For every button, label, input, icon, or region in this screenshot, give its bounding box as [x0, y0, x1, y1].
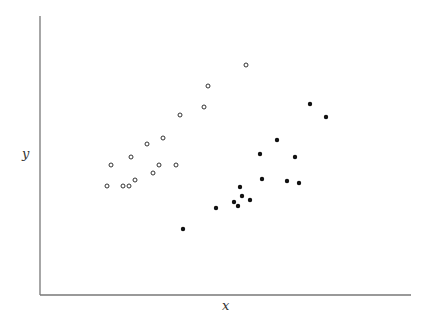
x-axis-label: x — [222, 298, 229, 313]
filled-dot-point — [240, 194, 244, 198]
open-circle-point — [178, 113, 182, 117]
filled-dot-series — [181, 102, 328, 231]
filled-dot-point — [232, 200, 236, 204]
filled-dot-point — [236, 204, 240, 208]
open-circle-point — [121, 184, 125, 188]
open-circle-point — [109, 163, 113, 167]
open-circle-point — [145, 142, 149, 146]
filled-dot-point — [297, 181, 301, 185]
open-circle-point — [244, 63, 248, 67]
open-circle-point — [151, 171, 155, 175]
open-circle-point — [161, 136, 165, 140]
filled-dot-point — [308, 102, 312, 106]
y-axis-label: y — [22, 146, 29, 161]
open-circle-point — [127, 184, 131, 188]
filled-dot-point — [238, 185, 242, 189]
filled-dot-point — [285, 179, 289, 183]
filled-dot-point — [260, 177, 264, 181]
filled-dot-point — [248, 198, 252, 202]
open-circle-series — [105, 63, 248, 188]
open-circle-point — [129, 155, 133, 159]
filled-dot-point — [275, 138, 279, 142]
open-circle-point — [206, 84, 210, 88]
filled-dot-point — [324, 115, 328, 119]
open-circle-point — [174, 163, 178, 167]
scatter-chart — [0, 0, 434, 325]
filled-dot-point — [258, 152, 262, 156]
open-circle-point — [105, 184, 109, 188]
filled-dot-point — [293, 155, 297, 159]
open-circle-point — [202, 105, 206, 109]
open-circle-point — [157, 163, 161, 167]
open-circle-point — [133, 178, 137, 182]
filled-dot-point — [214, 206, 218, 210]
filled-dot-point — [181, 227, 185, 231]
